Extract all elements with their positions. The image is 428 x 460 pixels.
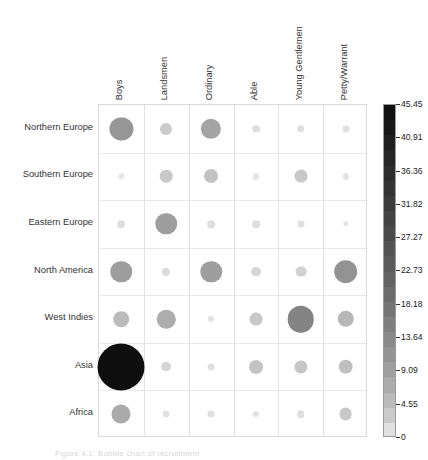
bubble-marker (163, 411, 170, 418)
bubble-marker (253, 411, 259, 417)
grid-line-vertical (278, 105, 279, 436)
bubble-chart: BoysLandsmenOrdinaryAbleYoung GentlemenP… (0, 0, 428, 460)
colorbar-segment (384, 150, 395, 166)
colorbar-tick-label: 0 (401, 433, 406, 442)
column-label-able: Able (250, 81, 259, 100)
bubble-marker (200, 261, 221, 282)
bubble-marker (334, 260, 358, 284)
colorbar-tick-mark (396, 171, 400, 172)
bubble-marker (161, 362, 171, 372)
figure-caption: Figure 4.1: Bubble chart of recruitment (55, 449, 199, 458)
column-label-landsmen: Landsmen (160, 57, 169, 100)
bubble-marker (294, 360, 307, 373)
colorbar-segment (384, 105, 395, 121)
bubble-marker (98, 343, 145, 390)
bubble-marker (342, 173, 348, 179)
bubble-marker (249, 313, 262, 326)
bubble-marker (208, 411, 215, 418)
colorbar-tick-label: 45.45 (401, 100, 423, 109)
colorbar-segment (384, 135, 395, 151)
bubble-marker (207, 220, 215, 228)
colorbar-segment (384, 347, 395, 363)
colorbar-segment (384, 256, 395, 272)
column-label-petty-warrant: Petty/Warrant (339, 44, 348, 101)
bubble-marker (119, 174, 124, 179)
colorbar-tick-label: 13.64 (401, 333, 423, 342)
colorbar-segment (384, 317, 395, 333)
bubble-marker (160, 170, 172, 182)
colorbar-segment (384, 377, 395, 393)
bubble-marker (297, 125, 305, 133)
colorbar-segment (384, 120, 395, 136)
colorbar-tick-mark (396, 204, 400, 205)
colorbar-tick-label: 22.73 (401, 266, 423, 275)
bubble-marker (156, 213, 177, 234)
bubble-marker (251, 267, 261, 277)
colorbar-segment (384, 408, 395, 424)
bubble-marker (162, 267, 170, 275)
colorbar-segment (384, 393, 395, 409)
colorbar-tick-mark (396, 137, 400, 138)
grid-line-horizontal (99, 390, 366, 391)
colorbar-tick-label: 9.09 (401, 366, 418, 375)
colorbar-segment (384, 272, 395, 288)
row-label-asia: Asia (75, 361, 93, 370)
colorbar-segment (384, 211, 395, 227)
bubble-marker (287, 306, 314, 333)
colorbar-segment (384, 302, 395, 318)
colorbar-segment (384, 196, 395, 212)
row-label-north-america: North America (34, 266, 93, 275)
colorbar-gradient (383, 104, 396, 437)
bubble-marker (249, 360, 263, 374)
row-label-africa: Africa (69, 408, 93, 417)
row-label-southern-europe: Southern Europe (23, 170, 93, 179)
bubble-marker (339, 408, 352, 421)
grid-line-vertical (323, 105, 324, 436)
bubble-marker (208, 316, 214, 322)
bubble-marker (112, 405, 131, 424)
colorbar-segment (384, 332, 395, 348)
bubble-marker (252, 125, 260, 133)
colorbar-tick-mark (396, 304, 400, 305)
column-label-boys: Boys (115, 79, 124, 100)
colorbar-segment (384, 166, 395, 182)
colorbar-segment (384, 287, 395, 303)
row-label-northern-europe: Northern Europe (24, 123, 93, 132)
colorbar-ticks: 45.4540.9136.3631.8227.2722.7318.1813.64… (396, 104, 428, 437)
grid-line-vertical (189, 105, 190, 436)
bubble-marker (110, 117, 133, 140)
colorbar-tick-mark (396, 337, 400, 338)
bubble-marker (157, 310, 175, 328)
colorbar-segment (384, 362, 395, 378)
colorbar-segment (384, 423, 395, 437)
row-axis-labels: Northern EuropeSouthern EuropeEastern Eu… (0, 0, 93, 460)
grid-line-vertical (144, 105, 145, 436)
bubble-marker (252, 220, 260, 228)
colorbar-tick-label: 27.27 (401, 233, 423, 242)
colorbar-tick-mark (396, 437, 400, 438)
bubble-marker (204, 169, 218, 183)
row-label-eastern-europe: Eastern Europe (28, 218, 93, 227)
colorbar-tick-label: 4.55 (401, 399, 418, 408)
grid-line-horizontal (99, 295, 366, 296)
bubble-marker (201, 119, 221, 139)
bubble-marker (160, 123, 172, 135)
colorbar-tick-label: 31.82 (401, 200, 423, 209)
grid-line-horizontal (99, 153, 366, 154)
colorbar-tick-mark (396, 104, 400, 105)
bubble-marker (342, 125, 349, 132)
colorbar-tick-label: 18.18 (401, 300, 423, 309)
bubble-marker (253, 173, 259, 179)
colorbar-tick-label: 40.91 (401, 133, 423, 142)
colorbar-tick-mark (396, 370, 400, 371)
colorbar-tick-mark (396, 237, 400, 238)
column-label-ordinary: Ordinary (205, 64, 214, 100)
bubble-marker (118, 220, 126, 228)
bubble-marker (208, 363, 215, 370)
bubble-marker (111, 261, 132, 282)
grid-line-horizontal (99, 248, 366, 249)
grid-line-horizontal (99, 343, 366, 344)
column-label-young-gentlemen: Young Gentlemen (294, 26, 303, 100)
colorbar-tick-mark (396, 404, 400, 405)
colorbar-segment (384, 241, 395, 257)
